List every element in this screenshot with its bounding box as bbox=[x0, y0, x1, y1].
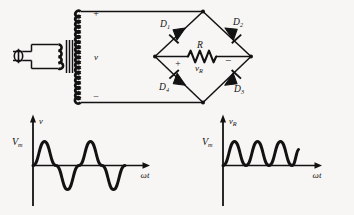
secondary-plus-label: + bbox=[93, 8, 99, 19]
output-x-axis-label: ωt bbox=[313, 170, 322, 180]
input-x-axis-arrowhead bbox=[143, 162, 151, 168]
load-minus-label: − bbox=[225, 54, 231, 66]
load-plus-label: + bbox=[175, 59, 180, 69]
load-voltage-label: vR bbox=[195, 63, 203, 74]
node-bottom bbox=[201, 101, 205, 105]
circuit-and-waveforms-figure: + v − D1 bbox=[0, 0, 354, 215]
resistor-label: R bbox=[196, 40, 203, 50]
output-x-axis-arrowhead bbox=[315, 162, 323, 168]
load-branch bbox=[155, 51, 251, 63]
ac-plug-icon bbox=[13, 49, 23, 63]
diode-D3-label: D3 bbox=[233, 84, 244, 95]
resistor-zigzag-icon bbox=[188, 51, 216, 63]
secondary-minus-label: − bbox=[93, 91, 99, 102]
primary-wiring bbox=[23, 45, 59, 69]
diode-D4-label: D4 bbox=[158, 82, 169, 93]
secondary-voltage-label: v bbox=[94, 52, 98, 62]
node-top bbox=[201, 10, 205, 14]
transformer-secondary-winding bbox=[75, 11, 81, 104]
diode-D3-symbol bbox=[225, 70, 241, 85]
output-peak-label: Vm bbox=[202, 136, 213, 148]
output-waveform-chart: vR Vm ωt bbox=[202, 115, 322, 207]
diode-bridge-group: D1 D2 D4 D3 bbox=[153, 10, 253, 105]
diode-D2-symbol bbox=[225, 28, 241, 43]
output-y-axis-label: vR bbox=[229, 116, 237, 127]
arm-top-right bbox=[203, 12, 251, 57]
output-rectified-curve bbox=[223, 142, 299, 166]
input-y-axis-label: v bbox=[39, 116, 43, 126]
output-y-axis-arrowhead bbox=[220, 115, 226, 123]
input-x-axis-label: ωt bbox=[141, 170, 150, 180]
input-waveform-chart: v Vm ωt bbox=[12, 115, 150, 207]
transformer-core-icon bbox=[67, 40, 73, 73]
input-y-axis-arrowhead bbox=[30, 115, 36, 123]
input-peak-label: Vm bbox=[12, 136, 23, 148]
diode-D2-label: D2 bbox=[232, 17, 243, 28]
transformer-primary-winding bbox=[59, 45, 64, 69]
diode-D1-label: D1 bbox=[159, 19, 170, 30]
figure-canvas: + v − D1 bbox=[0, 0, 354, 215]
